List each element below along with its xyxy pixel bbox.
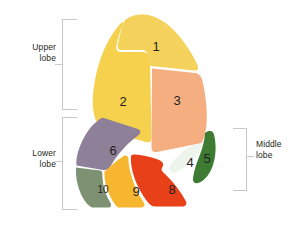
bracket-upper-lobe — [56, 20, 77, 110]
lobe-label-upper-line2: lobe — [10, 53, 56, 64]
lung-diagram — [0, 0, 306, 227]
lung-segments-figure: 1 2 3 4 5 6 8 9 10 Upper lobe Lower lobe… — [0, 0, 306, 227]
segment-3-shape — [152, 68, 207, 152]
lobe-label-lower-line2: lobe — [10, 159, 56, 170]
lobe-label-lower-line1: Lower — [32, 148, 56, 158]
lobe-label-middle-line2: lobe — [256, 150, 304, 161]
lobe-label-upper-line1: Upper — [32, 42, 56, 52]
lobe-label-middle: Middle lobe — [256, 139, 304, 160]
lobe-label-upper: Upper lobe — [10, 42, 56, 63]
lobe-label-lower: Lower lobe — [10, 148, 56, 169]
lobe-label-middle-line1: Middle — [256, 139, 282, 149]
bracket-middle-lobe — [234, 129, 254, 191]
bracket-lower-lobe — [56, 118, 77, 210]
